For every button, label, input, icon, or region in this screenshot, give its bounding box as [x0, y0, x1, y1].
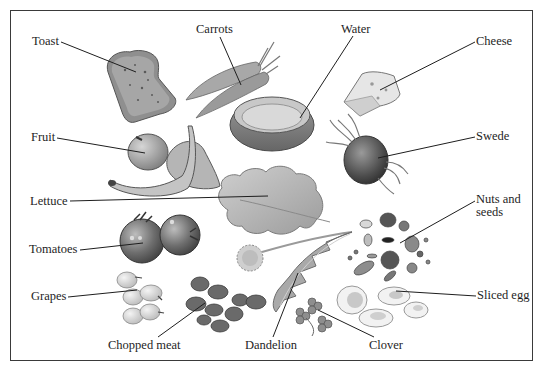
label-dandelion: Dandelion — [245, 339, 297, 352]
toast-illustration — [107, 50, 175, 122]
chopped-meat-illustration — [186, 277, 266, 332]
label-swede: Swede — [476, 130, 509, 143]
label-tomatoes: Tomatoes — [29, 243, 77, 256]
label-grapes: Grapes — [31, 290, 66, 303]
label-nuts-and-seeds: Nuts and seeds — [476, 193, 536, 219]
label-clover: Clover — [369, 339, 403, 352]
label-sliced-egg: Sliced egg — [477, 289, 529, 302]
fruit-illustration — [108, 126, 220, 196]
label-toast: Toast — [32, 35, 59, 48]
label-nuts-and-seeds-line2: seeds — [476, 206, 536, 219]
leader-line-water — [300, 36, 353, 118]
nuts-and-seeds-illustration — [348, 213, 430, 283]
leader-line-swede — [378, 137, 475, 158]
food-illustration — [0, 0, 546, 374]
label-fruit: Fruit — [31, 131, 55, 144]
label-water: Water — [341, 23, 371, 36]
lettuce-illustration — [219, 166, 330, 234]
clover-illustration — [296, 298, 332, 336]
cheese-illustration — [344, 72, 400, 116]
leader-line-nuts-and-seeds — [400, 201, 475, 243]
grapes-illustration — [117, 272, 164, 324]
label-carrots: Carrots — [196, 23, 233, 36]
leader-line-cheese — [380, 42, 475, 90]
label-cheese: Cheese — [476, 35, 512, 48]
water-bowl-illustration — [230, 97, 314, 151]
label-chopped-meat: Chopped meat — [108, 339, 181, 352]
dandelion-flower-illustration — [237, 232, 352, 271]
tomatoes-illustration — [120, 212, 200, 263]
label-lettuce: Lettuce — [30, 195, 67, 208]
